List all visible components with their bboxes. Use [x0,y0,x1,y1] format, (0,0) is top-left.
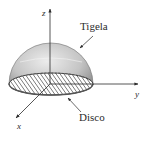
x-axis-label: x [16,121,21,131]
bowl-callout: Tigela [80,20,108,48]
disk-label: Disco [79,111,105,123]
hemisphere-diagram: z y x Tigela Disco [0,0,150,141]
z-axis-label: z [41,8,46,18]
disk-callout: Disco [68,98,105,123]
bowl-label: Tigela [80,20,108,32]
disk-pointer-arrow [68,98,81,112]
y-axis-label: y [134,89,139,99]
bowl-pointer-arrow [80,36,93,48]
